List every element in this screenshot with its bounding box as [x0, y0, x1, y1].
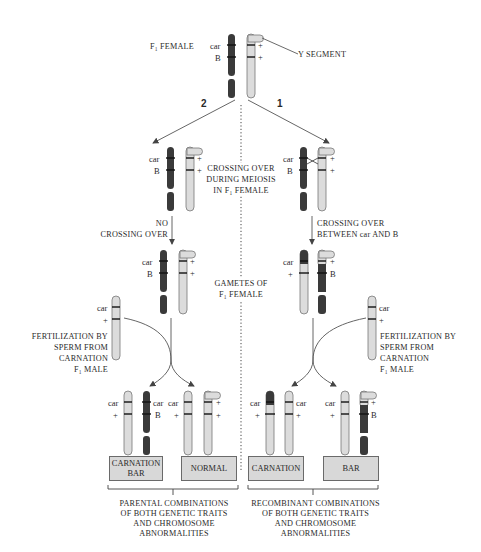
gene-plus: +	[216, 397, 221, 407]
phenotype-carnation-bar: CARNATIONBAR	[109, 456, 163, 481]
gene-plus: +	[330, 153, 335, 163]
gene-car: car	[283, 257, 293, 267]
pathway-2-number: 2	[201, 98, 207, 109]
gene-plus: +	[330, 410, 335, 420]
gene-plus: +	[330, 256, 335, 266]
gene-car: car	[379, 303, 389, 313]
parental-bracket	[108, 485, 238, 495]
gene-car: car	[296, 398, 306, 408]
gene-car: car	[283, 154, 293, 164]
phenotype-carnation: CARNATION	[248, 456, 304, 481]
crossing-over-meiosis-label: CROSSING OVER DURING MEIOSIS IN F₁ FEMAL…	[203, 163, 279, 196]
crossover-mark	[307, 158, 318, 164]
gene-car: car	[108, 398, 118, 408]
gene-plus: +	[197, 153, 202, 163]
gene-car: car	[250, 398, 260, 408]
gene-B: B	[287, 166, 293, 176]
gene-B: B	[155, 410, 161, 420]
gametes-label: GAMETES OF F₁ FEMALE	[206, 278, 276, 300]
gene-plus: +	[255, 410, 260, 420]
gene-plus: +	[103, 315, 108, 325]
gene-plus: +	[197, 165, 202, 175]
parental-caption: PARENTAL COMBINATIONS OF BOTH GENETIC TR…	[104, 499, 244, 539]
f1-female-label: F₁ FEMALE	[150, 41, 194, 52]
diagram-graphics	[0, 0, 481, 552]
right-fertilization-label: FERTILIZATION BY SPERM FROM CARNATION F₁…	[380, 331, 456, 375]
gene-car: car	[153, 398, 163, 408]
y-segment-label: Y SEGMENT	[298, 49, 346, 60]
gene-plus: +	[288, 269, 293, 279]
gene-car: car	[97, 303, 107, 313]
y-segment-pointer	[262, 38, 298, 54]
gene-plus: +	[113, 410, 118, 420]
gene-B: B	[330, 269, 336, 279]
gene-plus: +	[190, 256, 195, 266]
no-crossing-over-label: NO CROSSING OVER	[95, 218, 168, 240]
gene-plus: +	[258, 40, 263, 50]
recombinant-caption: RECOMBINANT COMBINATIONS OF BOTH GENETIC…	[243, 499, 388, 539]
gene-plus: +	[190, 268, 195, 278]
gene-plus: +	[174, 410, 179, 420]
gene-car: car	[142, 257, 152, 267]
right-sperm-chromosome	[368, 296, 376, 360]
gene-plus: +	[258, 52, 263, 62]
gene-plus: +	[296, 410, 301, 420]
gene-B: B	[215, 53, 221, 63]
pathway-1-number: 1	[277, 98, 283, 109]
gene-plus: +	[216, 410, 221, 420]
gene-car: car	[149, 154, 159, 164]
left-sperm-chromosome	[112, 296, 120, 360]
recombinant-bracket	[248, 485, 378, 495]
gene-car: car	[325, 398, 335, 408]
crossing-over-between-label: CROSSING OVER BETWEEN car AND B	[317, 218, 398, 240]
gene-B: B	[371, 410, 377, 420]
gene-B: B	[147, 269, 153, 279]
phenotype-normal: NORMAL	[181, 456, 237, 481]
phenotype-bar: BAR	[323, 456, 379, 481]
f1-female-dark-chromosome	[227, 34, 236, 98]
gene-plus: +	[371, 397, 376, 407]
gene-car: car	[168, 398, 178, 408]
left-fertilization-label: FERTILIZATION BY SPERM FROM CARNATION F₁…	[20, 331, 108, 375]
gene-car: car	[210, 41, 220, 51]
gene-B: B	[154, 166, 160, 176]
gene-plus: +	[330, 165, 335, 175]
gene-plus: +	[379, 315, 384, 325]
